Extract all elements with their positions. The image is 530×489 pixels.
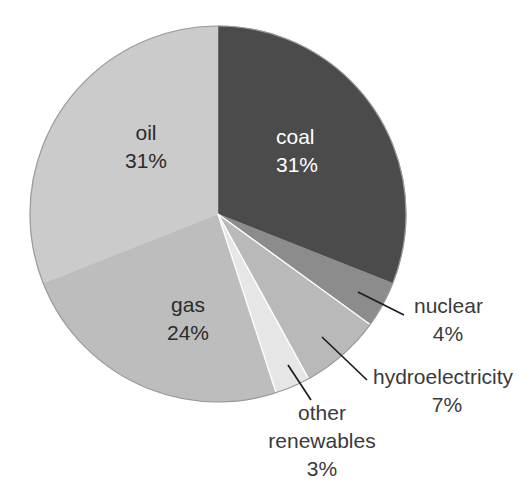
label-other-renewables-value: 3% [307,457,337,480]
label-other-renewables-line2: renewables [268,429,375,452]
label-nuclear-value: 4% [433,322,463,345]
label-hydroelectricity-name: hydroelectricity [373,365,514,388]
label-coal-value: 31% [276,153,318,176]
label-other-renewables: other renewables 3% [268,401,375,480]
label-other-renewables-line1: other [298,401,346,424]
label-gas-name: gas [171,293,205,316]
pie-chart-svg: coal 31% oil 31% gas 24% nuclear 4% hydr… [0,0,530,489]
label-oil-name: oil [135,121,156,144]
label-oil-value: 31% [125,149,167,172]
label-nuclear-name: nuclear [414,294,483,317]
label-coal-name: coal [276,125,315,148]
label-hydroelectricity-value: 7% [432,393,462,416]
label-hydroelectricity: hydroelectricity 7% [373,365,514,416]
pie-chart-figure: coal 31% oil 31% gas 24% nuclear 4% hydr… [0,0,530,489]
label-nuclear: nuclear 4% [414,294,483,345]
label-gas-value: 24% [167,321,209,344]
